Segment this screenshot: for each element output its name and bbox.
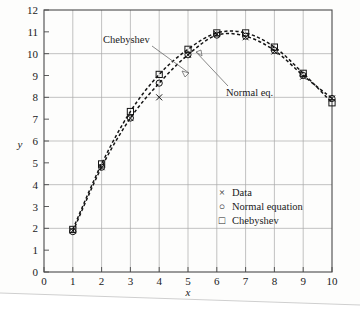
legend-label-chebyshev: Chebyshev bbox=[232, 215, 279, 226]
y-tick-label: 11 bbox=[27, 26, 38, 38]
x-tick-label: 8 bbox=[272, 275, 278, 287]
legend-symbol-normal-equation: ○ bbox=[219, 201, 225, 212]
figure-panel: 0123456789100123456789101112 x y Chebysh… bbox=[0, 0, 360, 310]
legend-symbol-data: × bbox=[219, 187, 225, 198]
y-tick-label: 4 bbox=[33, 179, 39, 191]
y-tick-label: 10 bbox=[27, 48, 39, 60]
y-tick-label: 12 bbox=[27, 4, 38, 16]
x-tick-label: 2 bbox=[99, 275, 105, 287]
y-tick-label: 5 bbox=[33, 157, 39, 169]
y-tick-label: 7 bbox=[33, 113, 39, 125]
x-tick-label: 6 bbox=[214, 275, 220, 287]
chart-canvas: 0123456789100123456789101112 x y Chebysh… bbox=[0, 0, 360, 310]
x-tick-label: 3 bbox=[128, 275, 134, 287]
x-axis-label: x bbox=[185, 286, 191, 298]
y-tick-label: 9 bbox=[33, 70, 39, 82]
y-tick-label: 0 bbox=[33, 266, 39, 278]
y-tick-label: 2 bbox=[33, 222, 39, 234]
chebyshev-callout-label: Chebyshev bbox=[103, 34, 150, 45]
y-axis-label: y bbox=[17, 138, 23, 150]
canvas-background bbox=[0, 0, 360, 310]
x-tick-label: 10 bbox=[327, 275, 339, 287]
y-tick-label: 3 bbox=[33, 201, 39, 213]
legend-label-normal-equation: Normal equation bbox=[232, 201, 304, 212]
y-tick-label: 8 bbox=[33, 91, 39, 103]
x-tick-label: 4 bbox=[156, 275, 162, 287]
legend-label-data: Data bbox=[232, 187, 252, 198]
x-tick-label: 1 bbox=[70, 275, 76, 287]
legend-symbol-chebyshev: □ bbox=[219, 215, 226, 226]
y-tick-label: 6 bbox=[33, 135, 39, 147]
x-tick-label: 7 bbox=[243, 275, 249, 287]
x-tick-label: 9 bbox=[300, 275, 306, 287]
y-tick-label: 1 bbox=[33, 244, 39, 256]
x-tick-label: 0 bbox=[41, 275, 47, 287]
normal-eq-callout-label: Normal eq. bbox=[226, 87, 273, 98]
